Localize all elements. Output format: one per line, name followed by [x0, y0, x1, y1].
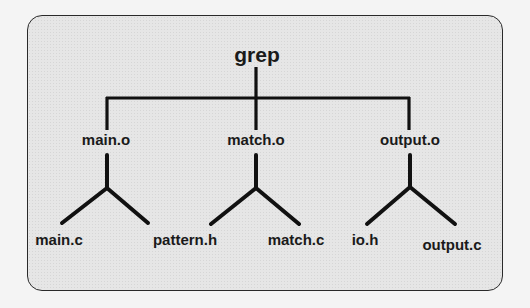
- fork-output-o: [367, 187, 455, 224]
- leaf-match-c: match.c: [268, 232, 325, 247]
- fork-main-o: [62, 188, 148, 223]
- leaf-main-c: main.c: [35, 232, 83, 247]
- root-node-label: grep: [234, 44, 280, 65]
- leaf-io-h: io.h: [352, 232, 379, 247]
- node-output-o: output.o: [380, 132, 440, 147]
- leaf-pattern-h: pattern.h: [153, 232, 217, 247]
- node-match-o: match.o: [227, 132, 285, 147]
- leaf-output-c: output.c: [422, 237, 481, 252]
- node-main-o: main.o: [82, 132, 130, 147]
- fork-match-o: [211, 188, 299, 224]
